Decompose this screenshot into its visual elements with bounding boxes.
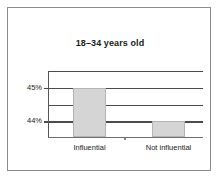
plot-area: 45% 44%: [48, 71, 203, 138]
gridline-upper: [48, 71, 203, 72]
chart-title: 18–34 years old: [0, 38, 220, 49]
gridline-45: [48, 88, 203, 89]
y-axis-line: [48, 71, 49, 138]
y-tick-mark-44: [44, 121, 48, 122]
bar-influential: [73, 88, 106, 138]
gridline-mid: [48, 105, 203, 106]
y-tick-mark-45: [44, 88, 48, 89]
category-label-not-influential: Not influential: [146, 143, 191, 152]
y-tick-label-45: 45%: [27, 84, 42, 92]
chart-figure: 18–34 years old 45% 44% Influential Not …: [0, 0, 220, 180]
bar-not-influential: [152, 121, 185, 137]
baseline-center-tick: [124, 138, 126, 140]
y-tick-label-44: 44%: [27, 117, 42, 125]
category-label-influential: Influential: [73, 143, 105, 152]
